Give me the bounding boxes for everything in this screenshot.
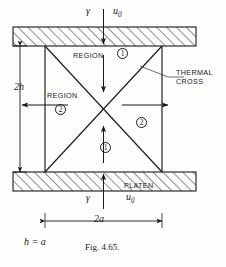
region-top-label: REGION (73, 52, 103, 59)
thermal-cross-diagram (0, 0, 226, 267)
dimension-height-label: 2h (14, 82, 24, 92)
thermal-cross-label-line1: THERMAL (176, 69, 213, 76)
figure-caption: Fig. 4.65. (85, 243, 120, 252)
region-2-left-marker: 2 (55, 104, 66, 115)
region-1-top-marker: 1 (117, 48, 128, 59)
relation-note: h = a (24, 237, 46, 247)
figure-container: γ u0 REGION 1 THERMAL CROSS 2h REGION 2 … (0, 0, 226, 267)
top-gamma-label: γ (86, 6, 90, 16)
region-2-right-marker: 2 (136, 117, 147, 128)
region-1-bottom-marker: 1 (100, 142, 111, 153)
dimension-height (13, 46, 27, 172)
bottom-u0-subscript: 0 (131, 197, 135, 205)
bottom-gamma-label: γ (86, 193, 90, 203)
platen-label: PLATEN (124, 182, 154, 189)
top-platen (13, 27, 196, 46)
top-u0-label: u0 (113, 6, 122, 19)
dimension-width-label: 2a (94, 214, 104, 224)
region-left-label: REGION (47, 92, 77, 99)
thermal-cross-label-line2: CROSS (176, 78, 203, 85)
bottom-platen (13, 172, 196, 191)
top-u0-subscript: 0 (118, 11, 122, 19)
bottom-u0-label: u0 (126, 192, 135, 205)
